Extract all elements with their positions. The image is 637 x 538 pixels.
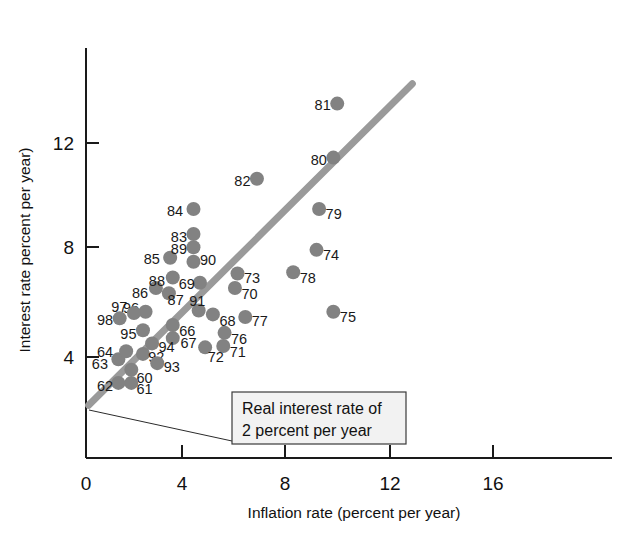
data-point-70: [228, 281, 242, 295]
data-point-label-84: 84: [167, 203, 183, 219]
data-point-label-90: 90: [200, 252, 216, 268]
data-point-label-61: 61: [137, 381, 153, 397]
data-point-label-69: 69: [179, 276, 195, 292]
data-point-label-67: 67: [181, 335, 197, 351]
data-point-label-62: 62: [97, 378, 113, 394]
data-point-62: [111, 376, 125, 390]
data-point-81: [330, 97, 344, 111]
data-point-label-95: 95: [120, 326, 136, 342]
data-point-label-88: 88: [149, 273, 165, 289]
x-tick-label-8: 8: [280, 473, 291, 494]
chart-canvas: 4 8 12 0 4 8 12 16 Inflation rate (perce…: [0, 0, 637, 538]
data-point-69: [193, 276, 207, 290]
data-point-94: [145, 336, 159, 350]
data-point-77: [238, 310, 252, 324]
data-point-label-98: 98: [97, 312, 113, 328]
x-axis-title: Inflation rate (percent per year): [248, 504, 461, 521]
data-point-label-81: 81: [315, 97, 331, 113]
y-axis-title: Interest rate percent per year): [16, 147, 33, 352]
y-tick-label-8: 8: [63, 237, 74, 258]
data-point-label-72: 72: [208, 349, 224, 365]
callout-leader-line: [89, 410, 232, 441]
data-point-82: [250, 172, 264, 186]
data-point-label-76: 76: [231, 331, 247, 347]
y-axis-ticks: 4 8 12: [53, 133, 99, 368]
data-point-label-79: 79: [326, 206, 342, 222]
data-point-95: [136, 323, 150, 337]
data-point-98: [113, 311, 127, 325]
data-point-label-70: 70: [241, 286, 257, 302]
data-point-93: [150, 356, 164, 370]
data-point-84: [186, 202, 200, 216]
data-point-label-94: 94: [159, 339, 175, 355]
data-point-label-80: 80: [311, 152, 327, 168]
data-point-label-93: 93: [164, 359, 180, 375]
data-point-68: [206, 307, 220, 321]
data-point-label-85: 85: [144, 251, 160, 267]
real-interest-rate-callout: Real interest rate of 2 percent per year: [232, 392, 406, 444]
data-point-76: [218, 326, 232, 340]
data-point-97: [127, 306, 141, 320]
data-point-label-75: 75: [340, 309, 356, 325]
data-point-label-64: 64: [97, 344, 113, 360]
data-point-79: [312, 202, 326, 216]
data-point-label-77: 77: [252, 313, 268, 329]
data-point-label-82: 82: [234, 173, 250, 189]
data-point-80: [326, 151, 340, 165]
x-tick-label-0: 0: [81, 473, 92, 494]
data-point-label-78: 78: [300, 270, 316, 286]
data-point-66: [166, 318, 180, 332]
x-tick-label-12: 12: [379, 473, 400, 494]
x-tick-label-4: 4: [177, 473, 188, 494]
data-point-90: [186, 255, 200, 269]
y-tick-label-4: 4: [63, 347, 74, 368]
scatter-chart: 4 8 12 0 4 8 12 16 Inflation rate (perce…: [0, 0, 637, 538]
data-point-74: [310, 243, 324, 257]
callout-line-1: Real interest rate of: [242, 400, 382, 417]
data-point-89: [186, 240, 200, 254]
data-point-64: [119, 344, 133, 358]
data-point-label-86: 86: [132, 285, 148, 301]
data-point-label-73: 73: [244, 270, 260, 286]
data-point-label-74: 74: [323, 247, 339, 263]
y-tick-label-12: 12: [53, 133, 74, 154]
data-point-label-91: 91: [189, 293, 205, 309]
data-point-83: [186, 227, 200, 241]
x-axis-ticks: 0 4 8 12 16: [81, 445, 504, 494]
data-point-73: [231, 267, 245, 281]
data-point-label-87: 87: [168, 292, 184, 308]
x-tick-label-16: 16: [482, 473, 503, 494]
data-point-78: [286, 265, 300, 279]
data-point-label-89: 89: [171, 241, 187, 257]
data-point-75: [326, 305, 340, 319]
data-points-group: 6061626364666768697071727374757677787980…: [92, 97, 356, 397]
data-point-88: [166, 271, 180, 285]
callout-line-2: 2 percent per year: [242, 422, 373, 439]
